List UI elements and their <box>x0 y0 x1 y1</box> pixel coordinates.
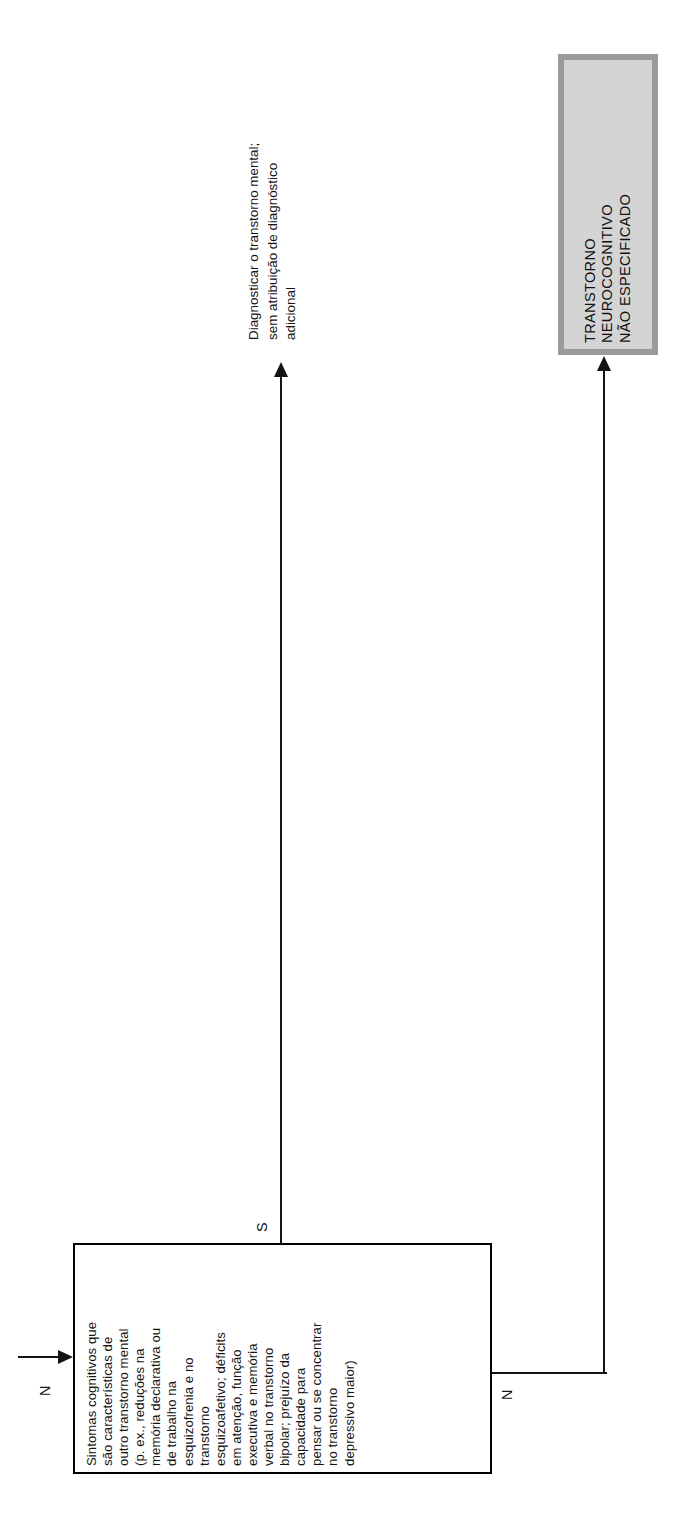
edge-incoming-arrowhead <box>58 1350 73 1364</box>
annotation-diagnose-mental-disorder: Diagnosticar o transtorno mental; sem at… <box>245 40 301 340</box>
edge-no-arrowhead <box>597 356 611 371</box>
criteria-node-cognitive-symptoms[interactable]: Sintomas cognitivos que são característi… <box>73 1243 492 1474</box>
diagnosis-node-text-rotator: TRANSTORNO NEUROCOGNITIVO NÃO ESPECIFICA… <box>564 60 652 349</box>
edge-yes-vertical-segment <box>280 376 282 1244</box>
diagnosis-node-transtorno-neurocognitivo-nao-especificado[interactable]: TRANSTORNO NEUROCOGNITIVO NÃO ESPECIFICA… <box>558 54 658 355</box>
diagnosis-node-label: TRANSTORNO NEUROCOGNITIVO NÃO ESPECIFICA… <box>582 194 635 343</box>
diagram-canvas: TRANSTORNO NEUROCOGNITIVO NÃO ESPECIFICA… <box>0 0 676 1534</box>
edge-yes-arrowhead <box>274 362 288 377</box>
criteria-node-label: Sintomas cognitivos que são característi… <box>84 1253 358 1466</box>
edge-no-label: N <box>500 1390 514 1400</box>
edge-incoming-horizontal-segment <box>18 1356 60 1358</box>
edge-incoming-label: N <box>38 1386 52 1396</box>
criteria-node-text-rotator: Sintomas cognitivos que são característi… <box>75 1245 492 1474</box>
edge-no-vertical-segment <box>603 368 605 1374</box>
edge-yes-label: S <box>255 1222 269 1232</box>
edge-no-horizontal-segment <box>489 1372 607 1374</box>
